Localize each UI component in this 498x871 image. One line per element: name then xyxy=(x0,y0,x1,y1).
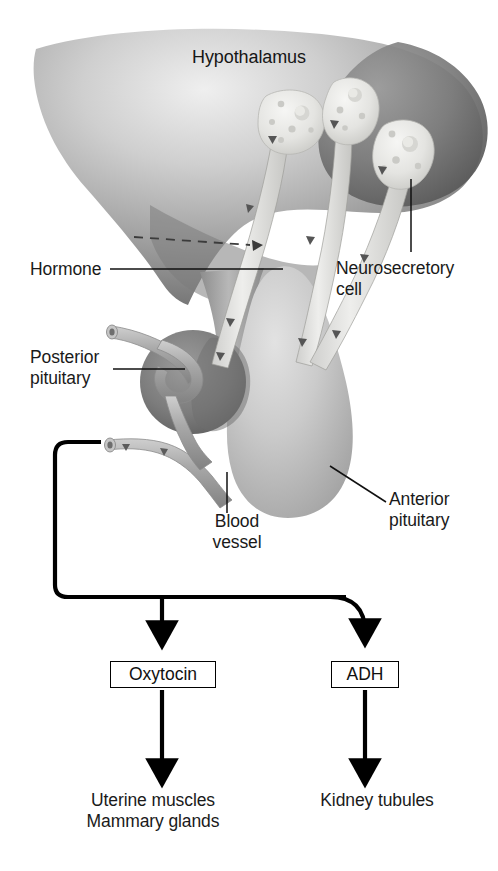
hormone-box-oxytocin: Oxytocin xyxy=(110,661,216,688)
label-posterior-pituitary: Posterior pituitary xyxy=(30,347,99,389)
hormone-box-adh: ADH xyxy=(331,661,399,688)
label-hormone: Hormone xyxy=(30,259,101,280)
flow-branch-adh xyxy=(330,597,365,632)
label-hypothalamus: Hypothalamus xyxy=(0,47,498,68)
anatomy-diagram xyxy=(0,0,498,871)
label-blood-vessel: Blood vessel xyxy=(192,511,282,553)
label-neurosecretory-cell: Neurosecretory cell xyxy=(336,258,454,300)
label-anterior-pituitary: Anterior pituitary xyxy=(389,489,449,531)
figure-canvas: Hypothalamus Hormone Posterior pituitary… xyxy=(0,0,498,871)
soma-1 xyxy=(258,90,325,154)
label-oxytocin-targets: Uterine muscles Mammary glands xyxy=(28,790,278,832)
label-adh-targets: Kidney tubules xyxy=(272,790,482,811)
